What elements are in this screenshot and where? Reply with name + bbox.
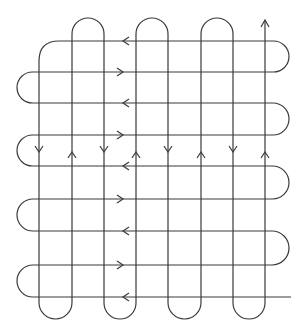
horizontal-serpentine-path (17, 41, 291, 297)
serpentine-weave-diagram (0, 0, 305, 333)
horizontal-path (17, 41, 291, 297)
direction-arrows (35, 20, 269, 301)
vertical-serpentine-path (39, 18, 265, 319)
vertical-path (39, 18, 265, 319)
